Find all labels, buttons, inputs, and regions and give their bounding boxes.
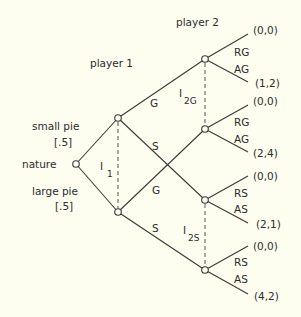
player2-label: player 2 bbox=[176, 16, 219, 28]
game-tree-diagram: player 1 player 2 nature small pie [.5] … bbox=[0, 0, 301, 317]
edge-p1-large-G bbox=[118, 129, 205, 212]
payoff-8: (4,2) bbox=[254, 290, 279, 302]
p1-action-G-bottom: G bbox=[152, 184, 160, 196]
node-p2-g-bottom bbox=[202, 126, 209, 133]
node-p1-small-pie bbox=[115, 115, 122, 122]
node-nature bbox=[73, 161, 80, 168]
info-set-I1-sub: 1 bbox=[107, 169, 113, 179]
payoff-1: (0,0) bbox=[253, 24, 278, 36]
small-pie-label: small pie bbox=[32, 120, 79, 132]
node-p2-g-top bbox=[202, 56, 209, 63]
p2-action-RS-top: RS bbox=[234, 187, 248, 199]
payoff-4: (2,4) bbox=[253, 147, 278, 159]
p2-action-RG-top: RG bbox=[234, 46, 249, 58]
p2-action-AG-top: AG bbox=[234, 63, 249, 75]
info-set-I2G-label: I bbox=[179, 87, 182, 99]
p2-action-RS-bottom: RS bbox=[234, 256, 248, 268]
small-pie-prob: [.5] bbox=[54, 136, 72, 148]
p1-action-S-top: S bbox=[152, 140, 159, 152]
info-set-I2S-sub: 2S bbox=[188, 233, 200, 243]
payoff-5: (0,0) bbox=[253, 170, 278, 182]
edge-p1-small-S bbox=[118, 118, 205, 200]
info-set-I1-label: I bbox=[100, 160, 103, 172]
node-p1-large-pie bbox=[115, 209, 122, 216]
edge-nature-small-pie bbox=[76, 118, 118, 164]
payoff-7: (0,0) bbox=[253, 240, 278, 252]
large-pie-prob: [.5] bbox=[55, 200, 73, 212]
p2-action-RG-bottom: RG bbox=[234, 116, 249, 128]
node-p2-s-bottom bbox=[202, 267, 209, 274]
player1-label: player 1 bbox=[90, 57, 133, 69]
info-set-I2S-label: I bbox=[183, 224, 186, 236]
p2-action-AG-bottom: AG bbox=[234, 133, 249, 145]
p1-action-G-top: G bbox=[150, 97, 158, 109]
payoff-3: (0,0) bbox=[253, 95, 278, 107]
nature-label: nature bbox=[22, 158, 56, 170]
p2-action-AS-bottom: AS bbox=[234, 273, 248, 285]
payoff-6: (2,1) bbox=[256, 218, 281, 230]
payoff-2: (1,2) bbox=[255, 77, 280, 89]
info-set-I2G-sub: 2G bbox=[184, 96, 197, 106]
large-pie-label: large pie bbox=[32, 185, 78, 197]
node-p2-s-top bbox=[202, 197, 209, 204]
p1-action-S-bottom: S bbox=[152, 222, 159, 234]
p2-action-AS-top: AS bbox=[234, 203, 248, 215]
